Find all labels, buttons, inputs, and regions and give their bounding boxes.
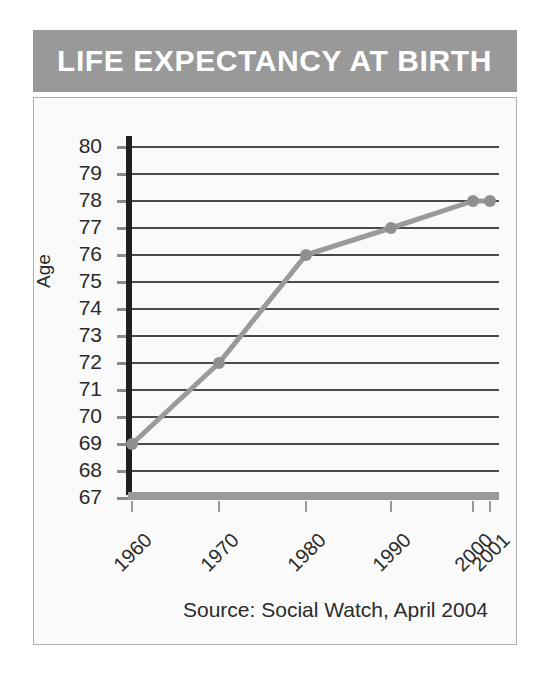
x-axis-tick: [131, 501, 133, 512]
y-axis-tick-label: 75: [62, 269, 102, 293]
y-axis-line: [126, 136, 132, 495]
gridline: [130, 389, 499, 391]
title-banner: LIFE EXPECTANCY AT BIRTH: [33, 30, 517, 92]
gridline: [130, 254, 499, 256]
y-axis-tick-label: 72: [62, 350, 102, 374]
y-axis-tick-label: 74: [62, 296, 102, 320]
y-axis-tick-label: 78: [62, 188, 102, 212]
gridline: [130, 443, 499, 445]
y-axis-tick-label: 76: [62, 242, 102, 266]
chart-title: LIFE EXPECTANCY AT BIRTH: [57, 44, 492, 78]
gridline: [130, 308, 499, 310]
y-axis-tick-label: 68: [62, 458, 102, 482]
x-axis-tick: [305, 501, 307, 512]
gridline: [130, 173, 499, 175]
y-axis-tick-label: 70: [62, 404, 102, 428]
gridline: [130, 335, 499, 337]
y-axis-tick-label: 71: [62, 377, 102, 401]
gridline: [130, 200, 499, 202]
y-axis-tick-label: 67: [62, 485, 102, 509]
y-axis-tick-label: 77: [62, 215, 102, 239]
x-axis-tick: [218, 501, 220, 512]
x-axis-line: [128, 492, 499, 500]
gridline: [130, 227, 499, 229]
source-note: Source: Social Watch, April 2004: [183, 598, 488, 622]
y-axis-tick-label: 79: [62, 161, 102, 185]
x-axis-tick: [390, 501, 392, 512]
chart-figure: LIFE EXPECTANCY AT BIRTH 807978777675747…: [0, 0, 555, 688]
chart-panel: [33, 97, 517, 645]
x-axis-tick: [472, 501, 474, 512]
gridline: [130, 281, 499, 283]
gridline: [130, 470, 499, 472]
gridline: [130, 416, 499, 418]
y-axis-tick: [117, 497, 128, 500]
gridline: [130, 362, 499, 364]
y-axis-tick-label: 73: [62, 323, 102, 347]
x-axis-tick: [489, 501, 491, 512]
gridline: [130, 146, 499, 148]
y-axis-tick-label: 69: [62, 431, 102, 455]
y-axis-title: Age: [33, 254, 55, 288]
y-axis-tick-label: 80: [62, 134, 102, 158]
